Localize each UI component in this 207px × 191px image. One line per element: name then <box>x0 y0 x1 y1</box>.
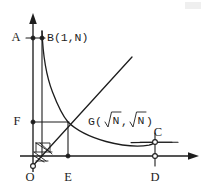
label-g-prefix: G( <box>88 115 102 128</box>
label-point-e: E <box>64 170 72 184</box>
diagram-canvas: A B(1,N) F C D E O G( N , N ) <box>0 0 207 191</box>
marker-point-d <box>153 154 158 159</box>
label-g-radicand-1: N <box>113 114 120 127</box>
x-axis-arrow-icon <box>188 152 199 160</box>
label-point-d: D <box>150 170 159 184</box>
marker-point-o <box>31 164 36 169</box>
marker-point-a <box>31 36 35 40</box>
identity-line-path <box>35 57 133 164</box>
label-point-o: O <box>25 170 34 184</box>
marker-point-b <box>40 36 44 40</box>
label-g-suffix: ) <box>146 115 153 128</box>
label-g-radicand-2: N <box>138 114 145 127</box>
y-axis-arrow-icon <box>29 13 37 24</box>
identity-line-group <box>35 57 133 164</box>
label-g-comma: , <box>121 115 128 128</box>
label-point-g: G( N , N ) <box>88 112 153 128</box>
geometry-figure: A B(1,N) F C D E O G( N , N ) <box>0 0 207 191</box>
construction-lines-group <box>26 31 172 166</box>
label-point-a: A <box>11 30 20 44</box>
label-point-c: C <box>154 125 162 139</box>
label-point-f: F <box>14 114 21 128</box>
label-point-b: B(1,N) <box>47 31 88 44</box>
marker-point-c <box>153 140 158 145</box>
right-angle-marker-icon <box>34 143 52 162</box>
marker-point-f <box>31 120 35 124</box>
scan-artifact <box>185 2 201 9</box>
marker-point-e <box>66 154 70 158</box>
hyperbola-path <box>42 31 155 146</box>
